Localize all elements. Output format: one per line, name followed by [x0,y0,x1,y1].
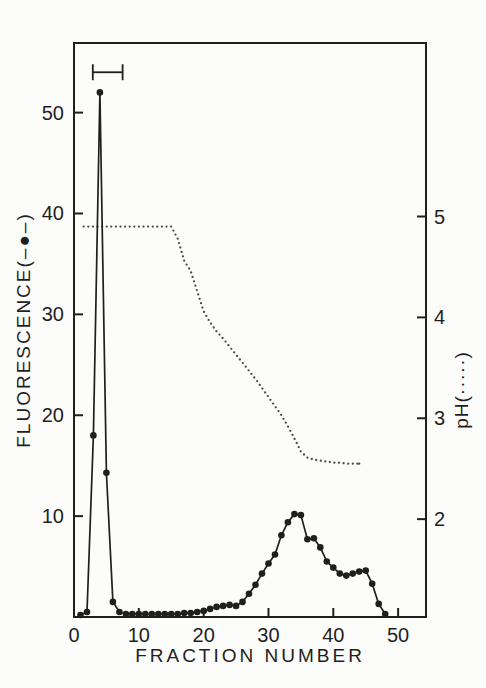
ph-dot [205,315,207,317]
ph-dot [303,453,305,455]
ph-dot [83,225,85,227]
ph-dot [245,366,247,368]
ph-dot [92,225,94,227]
left-tick-label-20: 20 [42,404,64,426]
ph-dot [215,330,217,332]
fluorescence-point [226,602,233,609]
ph-dot [129,225,131,227]
ph-dot [306,456,308,458]
ph-dot [170,225,172,227]
ph-dot [177,238,179,240]
ph-dot [267,395,269,397]
ph-dot [197,293,199,295]
fluorescence-point [246,591,253,598]
ph-dot [259,384,261,386]
right-tick-label-5: 5 [434,206,445,228]
ph-dot [87,225,89,227]
fluorescence-point [356,568,363,575]
ph-dot [247,369,249,371]
ph-series [83,225,361,464]
fluorescence-point [103,469,110,476]
pooled-fractions-bracket [93,64,123,80]
fluorescence-point [317,544,324,551]
ph-dot [253,376,255,378]
x-tick-label-20: 20 [193,624,215,646]
fluorescence-point [291,511,298,518]
x-axis-title: FRACTION NUMBER [135,645,365,667]
fluorescence-point [181,610,188,617]
ph-dot [242,362,244,364]
fluorescence-point [343,572,350,579]
fluorescence-point [272,551,279,558]
ph-dot [230,348,232,350]
fluorescence-point [324,558,331,565]
ph-dot [311,458,313,460]
fluorescence-point [123,611,130,618]
ph-dot [156,225,158,227]
fluorescence-point [304,536,311,543]
fluorescence-point [298,512,305,519]
fluorescence-point [233,603,240,610]
fluorescence-point [168,611,175,618]
fluorescence-point [375,601,382,608]
ph-dot [280,414,282,416]
chart-plot: 0102030405010203040502345 [0,0,486,688]
fluorescence-point [239,599,246,606]
fluorescence-point [330,564,337,571]
fluorescence-point [142,611,149,618]
fluorescence-point [116,609,123,616]
left-tick-label-50: 50 [42,102,64,124]
ph-dot [272,402,274,404]
ph-dot [124,225,126,227]
fluorescence-point [220,603,227,610]
ph-dot [256,380,258,382]
ph-dot [298,446,300,448]
plot-frame [74,43,426,617]
ph-dot [207,319,209,321]
ph-dot [320,460,322,462]
ph-dot [218,333,220,335]
ph-dot [285,422,287,424]
ph-dot [264,391,266,393]
ph-dot [106,225,108,227]
ph-dot [193,280,195,282]
fluorescence-point [213,604,220,611]
fluorescence-point [110,599,117,606]
ph-dot [347,463,349,465]
ph-dot [269,399,271,401]
fluorescence-point [265,560,272,567]
ph-dot [261,387,263,389]
fluorescence-point [136,611,143,618]
ph-dot [324,460,326,462]
left-axis-title: FLUORESCENCE(–●–) [13,212,35,448]
fluorescence-point [207,606,214,613]
fluorescence-point [252,581,259,588]
ph-dot [291,434,293,436]
ph-dot [147,225,149,227]
ph-dot [250,373,252,375]
ph-dot [352,463,354,465]
ph-dot [183,260,185,262]
ph-dot [227,344,229,346]
ph-dot [110,225,112,227]
fluorescence-point [285,519,292,526]
ph-dot [221,337,223,339]
ph-dot [196,289,198,291]
fluorescence-point [187,610,194,617]
fluorescence-point [129,611,136,618]
ph-dot [300,450,302,452]
ph-dot [201,306,203,308]
fluorescence-point [174,611,181,618]
ph-dot [174,233,176,235]
fluorescence-point [259,570,266,577]
ph-dot [190,271,192,273]
ph-dot [179,246,181,248]
ph-dot [282,418,284,420]
right-tick-label-3: 3 [434,407,445,429]
ph-dot [213,326,215,328]
ph-dot [180,251,182,253]
ph-dot [119,225,121,227]
ph-dot [275,406,277,408]
ph-dot [178,242,180,244]
ph-dot [142,225,144,227]
